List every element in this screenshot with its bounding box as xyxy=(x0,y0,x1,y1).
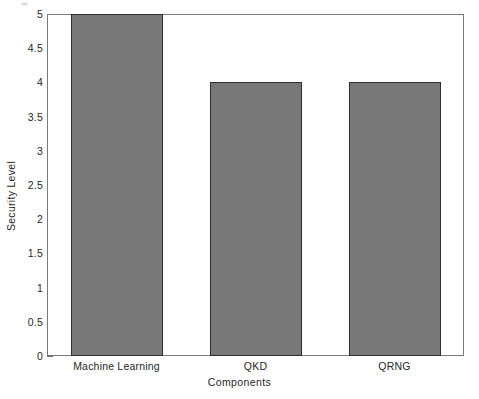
x-axis-tick-label: Machine Learning xyxy=(73,360,160,372)
y-axis-tick-label: 1.5 xyxy=(3,248,43,258)
bar xyxy=(71,14,163,356)
y-axis-tick-label: 2.5 xyxy=(3,180,43,190)
y-axis-tick: 3.5 xyxy=(0,112,43,122)
y-axis-tick-label: 0 xyxy=(3,351,43,361)
y-axis-tick: 1 xyxy=(0,283,43,293)
x-axis-tick-label: QKD xyxy=(244,360,267,372)
y-axis-tick-label: 2 xyxy=(3,214,43,224)
x-axis-tick-label: QRNG xyxy=(378,360,410,372)
y-axis-tick-label: 3.5 xyxy=(3,112,43,122)
y-axis-tick-label: 4 xyxy=(3,77,43,87)
y-axis-tick: 2 xyxy=(0,214,43,224)
y-axis-tick: 4 xyxy=(0,77,43,87)
scan-artifact xyxy=(21,2,28,6)
y-axis-tick-label: 4.5 xyxy=(3,43,43,53)
y-axis-tick: 0.5 xyxy=(0,317,43,327)
x-axis-title: Components xyxy=(0,376,479,388)
y-axis-tick-label: 1 xyxy=(3,283,43,293)
y-axis-tick: 1.5 xyxy=(0,248,43,258)
bar-chart-figure: Security Level 00.511.522.533.544.55 Mac… xyxy=(0,0,479,399)
y-axis-tick-label: 3 xyxy=(3,146,43,156)
y-axis-tick: 3 xyxy=(0,146,43,156)
y-axis-tick-label: 0.5 xyxy=(3,317,43,327)
bar xyxy=(210,82,302,356)
y-axis-tick: 5 xyxy=(0,9,43,19)
y-axis-tick: 0 xyxy=(0,351,43,361)
y-axis-tick-label: 5 xyxy=(3,9,43,19)
y-axis-title: Security Level xyxy=(4,141,18,251)
y-axis-tick: 4.5 xyxy=(0,43,43,53)
bar xyxy=(349,82,441,356)
y-axis-tick: 2.5 xyxy=(0,180,43,190)
